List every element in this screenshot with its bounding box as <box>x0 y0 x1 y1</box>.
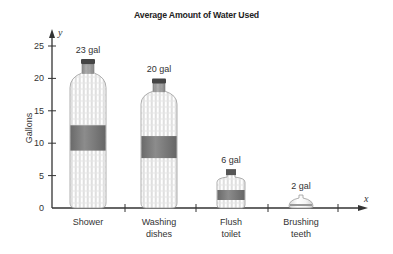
x-category-label: dishes <box>146 229 173 239</box>
bar-bottle-flush-toilet <box>217 169 245 208</box>
data-label: 23 gal <box>76 45 101 55</box>
bar-bottle-shower <box>70 59 106 208</box>
bar-bottle-washing-dishes <box>141 78 177 208</box>
x-category-label: Washing <box>142 217 177 227</box>
y-tick-label: 15 <box>34 106 44 116</box>
y-tick-label: 20 <box>34 73 44 83</box>
y-axis-label: Gallons <box>24 112 34 143</box>
x-axis-variable: x <box>363 193 369 204</box>
x-axis-arrow-icon <box>358 205 368 211</box>
x-category-label: teeth <box>291 229 311 239</box>
bar-bottle-brushing-teeth <box>289 195 313 208</box>
y-tick-label: 25 <box>34 41 44 51</box>
data-label: 20 gal <box>147 64 172 74</box>
x-category-label: Flush <box>220 217 242 227</box>
data-label: 2 gal <box>291 181 311 191</box>
x-category-label: toilet <box>221 229 241 239</box>
y-axis-arrow-icon <box>49 29 55 38</box>
x-category-label: Shower <box>73 217 104 227</box>
bar-chart: y0510152025Gallonsx23 galShower20 galWas… <box>0 0 393 254</box>
x-category-label: Brushing <box>283 217 319 227</box>
y-tick-label: 0 <box>39 203 44 213</box>
y-tick-label: 5 <box>39 171 44 181</box>
y-tick-label: 10 <box>34 138 44 148</box>
y-axis-variable: y <box>57 27 63 38</box>
data-label: 6 gal <box>221 155 241 165</box>
